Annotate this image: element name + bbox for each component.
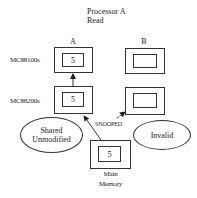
arrow-memory-to-cache-a	[84, 116, 101, 140]
arrow-snoop-to-cache-b	[117, 112, 125, 118]
arrows-layer	[0, 0, 197, 198]
